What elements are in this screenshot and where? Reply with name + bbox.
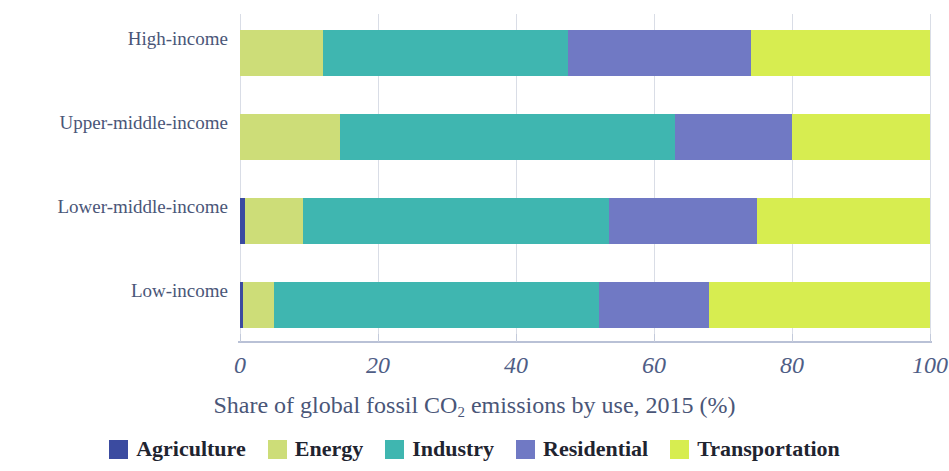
bar-segment-residential: [568, 30, 751, 76]
x-tick-label: 100: [912, 352, 948, 379]
axis-tickmark: [792, 334, 793, 342]
x-axis-title-text-after: emissions by use, 2015 (%): [465, 392, 736, 418]
bar-segment-industry: [323, 30, 568, 76]
stacked-bar: [240, 30, 930, 76]
bar-segment-energy: [240, 114, 340, 160]
x-axis-title: Share of global fossil CO2 emissions by …: [0, 392, 949, 421]
category-label-lower-middle-income: Lower-middle-income: [0, 184, 228, 230]
bar-row-high-income: [240, 30, 930, 76]
axis-tickmark: [930, 334, 931, 342]
legend-label: Energy: [295, 436, 363, 462]
plot-area: [240, 14, 930, 338]
legend-label: Residential: [543, 436, 648, 462]
x-tick-label: 20: [366, 352, 390, 379]
x-axis-title-subscript: 2: [457, 404, 464, 420]
axis-tickmark: [654, 334, 655, 342]
bar-segment-transportation: [792, 114, 930, 160]
category-label-high-income: High-income: [0, 16, 228, 62]
x-tick-label: 0: [234, 352, 246, 379]
bar-segment-transportation: [751, 30, 930, 76]
category-label-upper-middle-income: Upper-middle-income: [0, 100, 228, 146]
bar-segment-transportation: [709, 282, 930, 328]
legend-item-residential[interactable]: Residential: [516, 436, 648, 462]
bar-segment-residential: [609, 198, 757, 244]
gridline: [930, 14, 931, 338]
bar-row-lower-middle-income: [240, 198, 930, 244]
x-tick-label: 40: [504, 352, 528, 379]
bar-segment-industry: [303, 198, 609, 244]
x-axis-title-text-before: Share of global fossil CO: [213, 392, 457, 418]
legend-item-energy[interactable]: Energy: [268, 436, 363, 462]
bar-segment-energy: [245, 198, 304, 244]
legend-swatch-icon: [268, 440, 287, 459]
legend-swatch-icon: [385, 440, 404, 459]
x-axis-tick-labels: 020406080100: [0, 352, 949, 386]
stacked-bar: [240, 282, 930, 328]
legend: AgricultureEnergyIndustryResidentialTran…: [0, 436, 949, 462]
bar-segment-energy: [240, 30, 323, 76]
stacked-bar-chart: High-income Upper-middle-income Lower-mi…: [0, 0, 949, 471]
legend-label: Transportation: [697, 436, 840, 462]
bar-segment-industry: [274, 282, 598, 328]
legend-label: Industry: [412, 436, 494, 462]
bar-segment-industry: [340, 114, 675, 160]
bar-segment-transportation: [757, 198, 930, 244]
stacked-bar: [240, 114, 930, 160]
x-tick-label: 80: [780, 352, 804, 379]
x-tick-label: 60: [642, 352, 666, 379]
stacked-bar: [240, 198, 930, 244]
legend-item-industry[interactable]: Industry: [385, 436, 494, 462]
legend-swatch-icon: [670, 440, 689, 459]
category-label-low-income: Low-income: [0, 268, 228, 314]
axis-tickmark: [240, 334, 241, 342]
legend-item-transportation[interactable]: Transportation: [670, 436, 840, 462]
bar-segment-residential: [675, 114, 792, 160]
bar-row-upper-middle-income: [240, 114, 930, 160]
bar-segment-energy: [243, 282, 274, 328]
bar-row-low-income: [240, 282, 930, 328]
legend-label: Agriculture: [136, 436, 246, 462]
axis-tickmark: [516, 334, 517, 342]
legend-swatch-icon: [516, 440, 535, 459]
axis-tickmark: [378, 334, 379, 342]
x-axis-baseline: [238, 341, 932, 343]
bar-segment-residential: [599, 282, 709, 328]
legend-item-agriculture[interactable]: Agriculture: [109, 436, 246, 462]
legend-swatch-icon: [109, 440, 128, 459]
